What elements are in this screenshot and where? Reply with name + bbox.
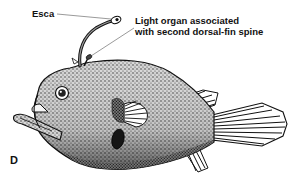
light-organ-leader-line [91, 28, 134, 56]
panel-label: D [10, 155, 18, 166]
light-organ-label: Light organ associated with second dorsa… [135, 15, 263, 37]
light-organ-label-line-2: with second dorsal-fin spine [135, 26, 263, 37]
caudal-fin [212, 103, 287, 146]
figure-panel: Esca Light organ associated with second … [0, 0, 299, 182]
light-organ-label-line-1: Light organ associated [135, 15, 263, 26]
light-organ [85, 54, 92, 60]
esca-label: Esca [32, 8, 54, 19]
esca-leader-line [57, 14, 111, 19]
eye [56, 87, 69, 100]
